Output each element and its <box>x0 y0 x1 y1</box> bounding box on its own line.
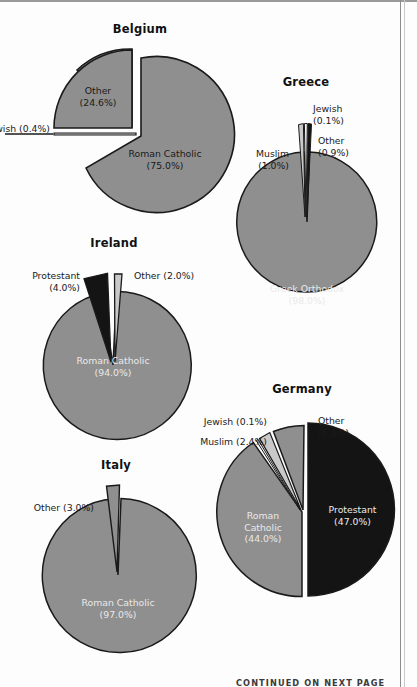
label-germany-other: Other (6.5%) <box>318 415 349 438</box>
label-ireland-roman-catholic-name: Roman Catholic <box>76 355 149 366</box>
label-italy-roman-catholic-pct: (97.0%) <box>100 609 137 620</box>
label-ireland-other: Other (2.0%) <box>134 270 194 282</box>
label-ireland-protestant: Protestant (4.0%) <box>0 270 80 293</box>
label-ireland-roman-catholic-pct: (94.0%) <box>95 367 132 378</box>
label-belgium-other-pct: (24.6%) <box>80 97 117 108</box>
label-ireland-protestant-pct: (4.0%) <box>49 282 80 293</box>
label-greece-orthodox: Greek Orthodox (98.0%) <box>252 283 362 306</box>
label-ireland-roman-catholic: Roman Catholic (94.0%) <box>63 355 163 378</box>
label-greece-muslim-pct: (1.0%) <box>258 160 289 171</box>
label-greece-other: Other (0.9%) <box>318 135 349 158</box>
label-greece-orthodox-pct: (98.0%) <box>289 295 326 306</box>
label-greece-orthodox-name: Greek Orthodox <box>270 283 344 294</box>
chart-title-germany: Germany <box>252 382 352 396</box>
slice-jewish <box>54 133 136 135</box>
label-greece-muslim-name: Muslim <box>256 148 289 159</box>
chart-title-greece: Greece <box>256 75 356 89</box>
label-italy-other: Other (3.0%) <box>0 502 94 514</box>
label-belgium-other-name: Other <box>85 85 111 96</box>
pie-chart-italy: Italy Other (3.0%) Roman Catholic (97.0%… <box>0 445 220 687</box>
label-belgium-jewish: Jewish (0.4%) <box>0 123 50 135</box>
label-germany-roman-catholic: Roman Catholic (44.0%) <box>226 510 300 545</box>
pie-chart-germany: Germany Jewish (0.1%) Muslim (2.4%) Othe… <box>190 382 417 632</box>
label-germany-roman-catholic-pct: (44.0%) <box>245 533 282 544</box>
chart-title-ireland: Ireland <box>64 236 164 250</box>
label-germany-protestant-pct: (47.0%) <box>334 516 371 527</box>
label-greece-other-pct: (0.9%) <box>318 147 349 158</box>
label-germany-protestant: Protestant (47.0%) <box>310 504 395 527</box>
slice-roman-catholic <box>42 499 196 653</box>
figure-page: Belgium Other (24.6%) Roman Catholic (75… <box>0 0 417 687</box>
label-germany-other-name: Other <box>318 415 344 426</box>
chart-title-italy: Italy <box>66 458 166 472</box>
label-germany-catholic: Catholic <box>244 522 282 533</box>
chart-title-belgium: Belgium <box>90 22 190 36</box>
label-greece-muslim: Muslim (1.0%) <box>210 148 289 171</box>
continued-note: CONTINUED ON NEXT PAGE <box>236 678 385 687</box>
label-belgium-roman-catholic-pct: (75.0%) <box>147 160 184 171</box>
label-greece-other-name: Other <box>318 135 344 146</box>
label-greece-jewish-pct: (0.1%) <box>313 115 344 126</box>
label-greece-jewish-name: Jewish <box>313 103 342 114</box>
label-italy-roman-catholic-name: Roman Catholic <box>81 597 154 608</box>
label-germany-roman: Roman <box>247 510 279 521</box>
label-ireland-protestant-name: Protestant <box>32 270 80 281</box>
label-belgium-other: Other (24.6%) <box>63 85 133 108</box>
label-greece-jewish: Jewish (0.1%) <box>313 103 344 126</box>
label-belgium-roman-catholic-name: Roman Catholic <box>128 148 201 159</box>
label-germany-jewish: Jewish (0.1%) <box>170 416 267 428</box>
label-italy-roman-catholic: Roman Catholic (97.0%) <box>68 597 168 620</box>
label-germany-other-pct: (6.5%) <box>318 427 349 438</box>
label-germany-protestant-name: Protestant <box>329 504 377 515</box>
